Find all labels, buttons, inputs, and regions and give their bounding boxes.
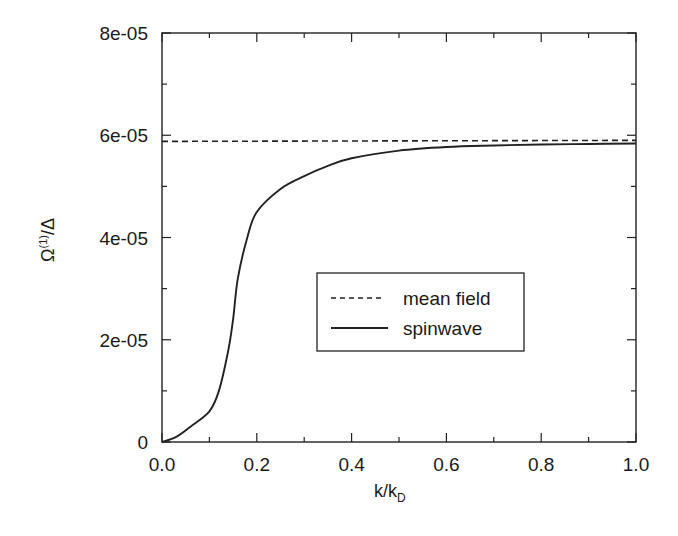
plot-frame [162,33,636,442]
x-tick-label: 0.0 [149,454,175,475]
legend-spinwave-label: spinwave [403,318,482,339]
chart: 0.00.20.40.60.81.002e-054e-056e-058e-05 … [0,0,678,536]
tick-labels: 0.00.20.40.60.81.002e-054e-056e-058e-05 [99,23,649,475]
x-tick-label: 0.2 [244,454,270,475]
legend-box [317,273,524,351]
x-tick-label: 0.6 [433,454,459,475]
y-tick-label: 6e-05 [99,125,148,146]
y-axis-label: Ω(1)/Δ [37,218,58,262]
x-axis-label: k/kD [374,481,406,505]
x-tick-label: 0.4 [338,454,365,475]
legend: mean field spinwave [317,273,524,351]
x-tick-label: 0.8 [528,454,554,475]
axis-ticks [162,33,636,442]
y-tick-label: 8e-05 [99,23,148,44]
x-tick-label: 1.0 [623,454,649,475]
y-tick-label: 0 [137,432,148,453]
mean-field-line [162,140,636,141]
y-tick-label: 2e-05 [99,330,148,351]
plot-border [162,33,636,442]
legend-mean-field-label: mean field [403,288,491,309]
y-tick-label: 4e-05 [99,228,148,249]
